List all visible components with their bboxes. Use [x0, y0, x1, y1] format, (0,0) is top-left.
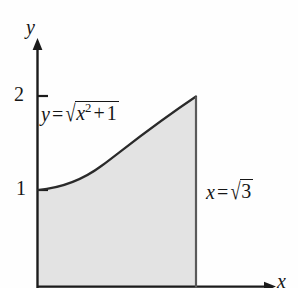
y-tick-label-1: 1	[16, 178, 26, 198]
boundary-equation-lhs: x	[206, 181, 215, 203]
boundary-equation-radicand: 3	[240, 179, 253, 201]
radicand-base: x	[76, 102, 85, 124]
boundary-equation-radical: √3	[230, 180, 253, 202]
shaded-region	[39, 98, 197, 288]
radicand-plus-operator: +	[91, 102, 106, 124]
y-axis-arrow-icon	[33, 38, 43, 50]
y-tick-label-2: 2	[14, 84, 24, 104]
curve-equation-radicand: x2+1	[75, 101, 119, 123]
boundary-equation-label: x=√3	[206, 180, 253, 202]
curve-equation-lhs: y	[41, 103, 50, 125]
boundary-equation-operator: =	[215, 181, 230, 203]
curve-equation-radical: √x2+1	[65, 102, 119, 124]
y-axis-label: y	[26, 17, 35, 37]
figure-canvas: y x 2 1 y=√x2+1 x=√3	[0, 0, 298, 288]
x-axis-arrow-icon	[264, 282, 276, 288]
plot-graphic	[0, 0, 298, 288]
curve-equation-label: y=√x2+1	[41, 102, 119, 124]
curve-equation-operator: =	[50, 103, 65, 125]
radicand-constant: 1	[107, 102, 117, 124]
x-axis-label: x	[277, 271, 286, 288]
